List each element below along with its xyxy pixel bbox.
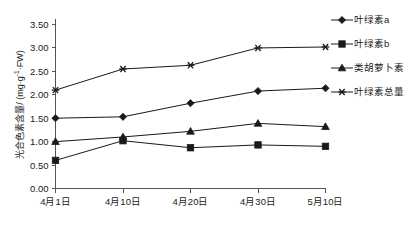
- legend-label: 叶绿素总量: [354, 86, 404, 98]
- star-icon: [330, 85, 354, 99]
- data-point-triangle: [254, 120, 262, 127]
- data-point-diamond: [322, 85, 329, 92]
- x-tick-label: 5月10日: [308, 196, 344, 207]
- legend-item-1[interactable]: 叶绿素b: [330, 32, 415, 56]
- diamond-marker: [338, 16, 345, 23]
- data-point-star: [254, 45, 262, 51]
- diamond-marker: [52, 115, 59, 122]
- y-tick-label: 3.00: [30, 42, 49, 53]
- y-tick-label: 2.00: [30, 89, 49, 100]
- diamond-marker: [187, 100, 194, 107]
- data-point-star: [338, 89, 346, 95]
- square-marker: [339, 41, 345, 47]
- data-point-square: [255, 142, 261, 148]
- x-tick-label: 4月30日: [240, 196, 276, 207]
- data-point-star: [322, 44, 330, 50]
- data-point-star: [119, 66, 127, 72]
- y-tick-label: 3.50: [30, 19, 49, 30]
- square-marker: [322, 143, 328, 149]
- diamond-marker: [322, 85, 329, 92]
- square-marker: [52, 157, 58, 163]
- data-point-diamond: [254, 87, 261, 94]
- y-tick-label: 0.50: [30, 160, 49, 171]
- data-point-diamond: [119, 113, 126, 120]
- y-tick-label: 1.50: [30, 113, 49, 124]
- y-tick-label: 0.00: [30, 183, 49, 194]
- data-point-square: [322, 143, 328, 149]
- data-point-diamond: [52, 115, 59, 122]
- data-point-square: [339, 41, 345, 47]
- legend-label: 叶绿素a: [354, 14, 389, 26]
- data-point-star: [187, 62, 195, 68]
- series-line-3: [56, 47, 326, 90]
- data-point-diamond: [338, 16, 345, 23]
- x-tick-label: 4月20日: [173, 196, 209, 207]
- y-tick-label: 2.50: [30, 66, 49, 77]
- legend-item-2[interactable]: 类胡萝卜素: [330, 56, 415, 80]
- square-marker: [187, 145, 193, 151]
- legend-item-3[interactable]: 叶绿素总量: [330, 80, 415, 104]
- legend-item-0[interactable]: 叶绿素a: [330, 8, 415, 32]
- legend-label: 类胡萝卜素: [354, 62, 404, 74]
- x-tick-label: 4月1日: [40, 196, 71, 207]
- chart-legend: 叶绿素a叶绿素b类胡萝卜素叶绿素总量: [330, 8, 415, 104]
- diamond-marker: [119, 113, 126, 120]
- x-tick-label: 4月10日: [105, 196, 141, 207]
- legend-label: 叶绿素b: [354, 38, 389, 50]
- triangle-icon: [330, 61, 354, 75]
- chart-figure: 光合色素含量/ (mg·g-1·FW) 0.000.501.001.502.00…: [0, 0, 415, 243]
- data-point-square: [52, 157, 58, 163]
- triangle-marker: [254, 120, 262, 127]
- data-point-square: [187, 145, 193, 151]
- square-icon: [330, 37, 354, 51]
- y-tick-label: 1.00: [30, 136, 49, 147]
- data-point-diamond: [187, 100, 194, 107]
- diamond-marker: [254, 87, 261, 94]
- square-marker: [255, 142, 261, 148]
- diamond-icon: [330, 13, 354, 27]
- figure-caption: [0, 236, 415, 243]
